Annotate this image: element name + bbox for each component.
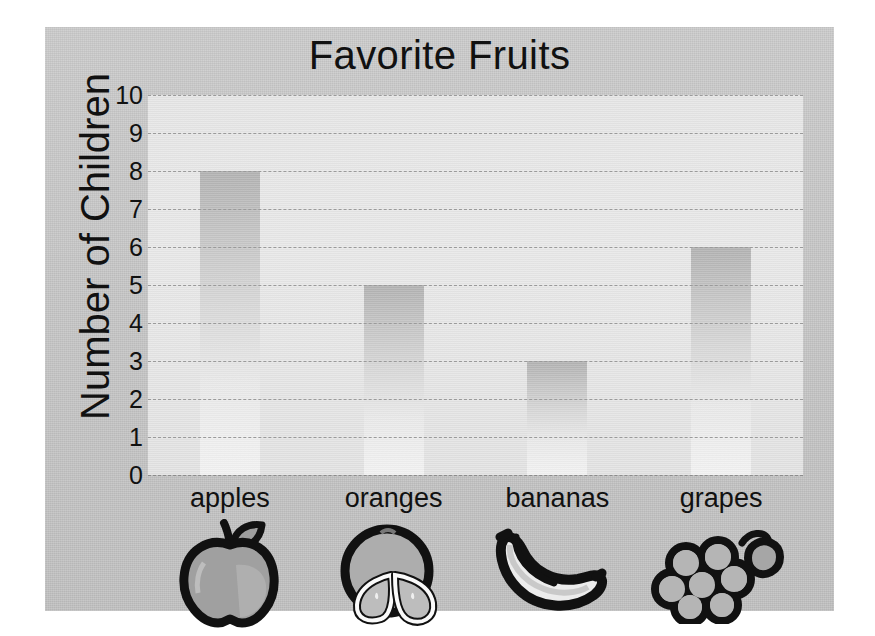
grapes-icon [646,519,796,628]
gridline-2 [148,399,803,400]
y-tick-label-6: 6 [97,235,143,260]
y-tick-label-2: 2 [97,387,143,412]
y-tick-label-1: 1 [97,425,143,450]
x-label-apples: apples [150,483,310,514]
y-tick-label-3: 3 [97,349,143,374]
y-tick-label-5: 5 [97,273,143,298]
chart-poster: Favorite Fruits Number of Children 10987… [0,0,875,636]
y-tick-label-9: 9 [97,121,143,146]
banana-icon [492,519,622,623]
x-label-oranges: oranges [314,483,474,514]
gridline-3 [148,361,803,362]
chart-title: Favorite Fruits [45,33,834,78]
gridline-10 [148,95,803,96]
gridline-9 [148,133,803,134]
y-axis-tick-labels: 109876543210 [85,95,143,475]
x-label-bananas: bananas [477,483,637,514]
plot-area [148,95,803,475]
y-tick-label-8: 8 [97,159,143,184]
gridline-7 [148,209,803,210]
gridline-8 [148,171,803,172]
gridline-1 [148,437,803,438]
apple-icon [170,519,290,633]
gridline-5 [148,285,803,286]
gridline-0 [148,475,803,476]
y-tick-label-0: 0 [97,463,143,488]
gridline-4 [148,323,803,324]
chart-card: Favorite Fruits Number of Children 10987… [45,27,834,611]
x-label-grapes: grapes [641,483,801,514]
bar-oranges [364,285,424,475]
gridline-6 [148,247,803,248]
y-tick-label-4: 4 [97,311,143,336]
bar-bananas [527,361,587,475]
orange-icon [329,519,459,633]
y-tick-label-10: 10 [97,83,143,108]
y-tick-label-7: 7 [97,197,143,222]
